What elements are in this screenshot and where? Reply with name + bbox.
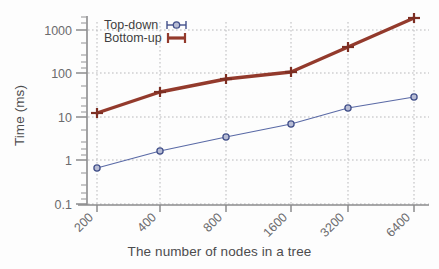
x-tick-label: 400 [134,210,159,235]
x-tick-labels: 200 400 800 1600 3200 6400 [71,210,413,240]
x-tick-label: 1600 [261,210,291,240]
y-tick-label: 1 [65,154,72,168]
grid-vertical [97,22,414,205]
y-tick-label: 10 [58,111,72,125]
x-tick-label: 800 [200,210,225,235]
x-axis-ticks [97,205,414,212]
x-tick-label: 200 [71,210,96,235]
legend-marker-bottom-up [167,33,186,43]
data-point [411,94,417,100]
y-axis-minor-ticks [81,17,87,199]
y-axis-major-ticks [76,30,87,204]
data-point [345,105,351,111]
chart-figure: 1000 100 10 1 0.1 200 400 800 1600 3200 … [0,0,439,269]
data-point [288,121,294,127]
y-tick-labels: 1000 100 10 1 0.1 [44,24,72,212]
data-point [94,165,100,171]
series-line-top-down [97,97,414,168]
x-axis-title: The number of nodes in a tree [0,244,439,259]
data-point [157,148,163,154]
grid-horizontal [88,30,429,204]
y-axis-title: Time (ms) [12,61,27,171]
y-tick-label: 1000 [44,24,72,38]
legend-label-top-down: Top-down [104,18,158,32]
legend-label-bottom-up: Bottom-up [104,31,162,45]
x-tick-label: 6400 [384,210,414,240]
y-tick-label: 100 [51,67,72,81]
line-chart-plot: 1000 100 10 1 0.1 200 400 800 1600 3200 … [0,0,439,269]
y-tick-label: 0.1 [55,198,72,212]
x-tick-label: 3200 [318,210,348,240]
legend-marker-top-down [167,21,186,29]
data-point [223,134,229,140]
chart-legend: Top-down Bottom-up [104,18,186,45]
